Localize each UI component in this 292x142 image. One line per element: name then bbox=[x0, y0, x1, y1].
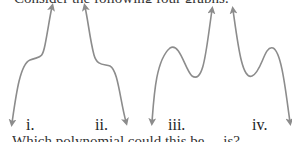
graph-iii-label: iii. bbox=[168, 117, 185, 133]
graph-ii-curve bbox=[85, 7, 126, 122]
polynomial-graphs bbox=[0, 0, 292, 142]
graph-i-label: i. bbox=[26, 117, 34, 133]
graph-iv-curve bbox=[233, 10, 290, 122]
graph-i-curve bbox=[12, 7, 52, 123]
graph-iv-label: iv. bbox=[252, 117, 267, 133]
question-bottom-text: Which polynomial could this be ... is? bbox=[12, 134, 240, 142]
graph-iii-curve bbox=[152, 10, 212, 122]
graph-ii-label: ii. bbox=[95, 117, 108, 133]
